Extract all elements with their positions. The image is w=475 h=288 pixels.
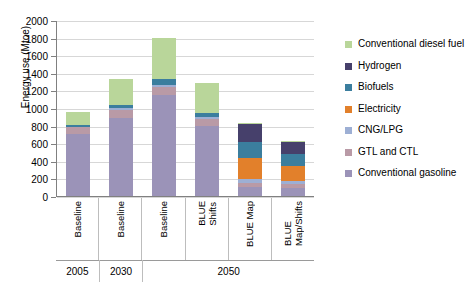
y-axis-tick-label: 600 bbox=[8, 139, 48, 150]
stacked-bar[interactable] bbox=[152, 38, 176, 196]
stacked-bar[interactable] bbox=[281, 141, 305, 196]
bar-segment[interactable] bbox=[281, 188, 305, 196]
y-axis-tick bbox=[51, 144, 56, 145]
y-axis-tick-label: 1400 bbox=[8, 68, 48, 79]
x-axis-category-cell: BLUE Map/Shifts bbox=[272, 198, 314, 260]
x-axis-category-labels: BaselineBaselineBaselineBLUE ShiftsBLUE … bbox=[56, 198, 314, 261]
legend-item[interactable]: Conventional diesel fuel bbox=[345, 38, 475, 50]
y-axis-tick-label: 1200 bbox=[8, 86, 48, 97]
bar-segment[interactable] bbox=[152, 95, 176, 196]
legend-item[interactable]: Electricity bbox=[345, 103, 475, 115]
bar-slot bbox=[100, 21, 143, 196]
x-axis-group-label: 2050 bbox=[143, 260, 314, 282]
bar-segment[interactable] bbox=[152, 87, 176, 94]
chart-figure: Energy use (Mtoe) 0200400600800100012001… bbox=[0, 0, 475, 288]
legend-item[interactable]: Hydrogen bbox=[345, 60, 475, 72]
bar-segment[interactable] bbox=[152, 38, 176, 79]
bar-slot bbox=[228, 21, 271, 196]
y-axis-tick-label: 0 bbox=[8, 192, 48, 203]
x-axis-category-label: Baseline bbox=[72, 201, 83, 237]
x-axis-category-cell: Baseline bbox=[142, 198, 185, 260]
bar-segment[interactable] bbox=[109, 118, 133, 196]
legend-swatch-icon bbox=[345, 149, 352, 156]
y-axis-tick bbox=[51, 56, 56, 57]
legend-item[interactable]: Conventional gasoline bbox=[345, 167, 475, 179]
legend-label: Hydrogen bbox=[358, 60, 401, 72]
x-axis-category-label: BLUE Map/Shifts bbox=[282, 201, 304, 246]
bar-segment[interactable] bbox=[195, 119, 219, 126]
bar-segment[interactable] bbox=[238, 142, 262, 157]
legend-label: Electricity bbox=[358, 103, 401, 115]
y-axis-tick bbox=[51, 91, 56, 92]
y-axis-tick bbox=[51, 39, 56, 40]
y-axis-tick-label: 1000 bbox=[8, 104, 48, 115]
bar-segment[interactable] bbox=[109, 79, 133, 105]
plot-area: 0200400600800100012001400160018002000 bbox=[56, 21, 314, 197]
bar-group bbox=[57, 21, 314, 196]
bar-segment[interactable] bbox=[195, 83, 219, 113]
y-axis-tick-label: 800 bbox=[8, 121, 48, 132]
stacked-bar[interactable] bbox=[238, 123, 262, 196]
bar-slot bbox=[271, 21, 314, 196]
bar-segment[interactable] bbox=[238, 158, 262, 179]
y-axis-tick-label: 400 bbox=[8, 156, 48, 167]
y-axis-tick bbox=[51, 109, 56, 110]
legend-label: Conventional diesel fuel bbox=[358, 38, 464, 50]
legend-swatch-icon bbox=[345, 63, 352, 70]
legend-label: Conventional gasoline bbox=[358, 167, 456, 179]
x-axis-group-label: 2030 bbox=[100, 260, 144, 282]
bar-segment[interactable] bbox=[281, 142, 305, 153]
legend-item[interactable]: CNG/LPG bbox=[345, 124, 475, 136]
bar-segment[interactable] bbox=[109, 110, 133, 117]
x-axis-category-cell: Baseline bbox=[99, 198, 142, 260]
bar-segment[interactable] bbox=[66, 134, 90, 196]
y-axis-tick bbox=[51, 74, 56, 75]
bar-segment[interactable] bbox=[238, 124, 262, 142]
bar-segment[interactable] bbox=[66, 127, 90, 134]
x-axis-category-label: BLUE Shifts bbox=[196, 201, 218, 226]
stacked-bar[interactable] bbox=[195, 83, 219, 196]
x-axis-category-label: Baseline bbox=[158, 201, 169, 237]
y-axis-tick-label: 1800 bbox=[8, 33, 48, 44]
y-axis-tick bbox=[51, 127, 56, 128]
x-axis-category-cell: Baseline bbox=[56, 198, 99, 260]
legend-swatch-icon bbox=[345, 127, 352, 134]
legend: Conventional diesel fuelHydrogenBiofuels… bbox=[345, 38, 475, 189]
legend-swatch-icon bbox=[345, 170, 352, 177]
bar-segment[interactable] bbox=[281, 166, 305, 181]
legend-label: Biofuels bbox=[358, 81, 394, 93]
x-axis-category-label: BLUE Map bbox=[244, 201, 255, 247]
y-axis-tick bbox=[51, 162, 56, 163]
y-axis-tick-label: 2000 bbox=[8, 16, 48, 27]
stacked-bar[interactable] bbox=[109, 79, 133, 196]
x-axis-category-cell: BLUE Map bbox=[229, 198, 272, 260]
legend-label: CNG/LPG bbox=[358, 124, 403, 136]
bar-segment[interactable] bbox=[238, 187, 262, 196]
y-axis-tick-label: 200 bbox=[8, 174, 48, 185]
stacked-bar[interactable] bbox=[66, 112, 90, 196]
bar-segment[interactable] bbox=[66, 112, 90, 124]
y-axis-tick bbox=[51, 21, 56, 22]
legend-item[interactable]: GTL and CTL bbox=[345, 146, 475, 158]
y-axis-tick-label: 1600 bbox=[8, 51, 48, 62]
x-axis-group-labels: 200520302050 bbox=[56, 260, 314, 282]
bar-slot bbox=[143, 21, 186, 196]
legend-label: GTL and CTL bbox=[358, 146, 418, 158]
x-axis-group-label: 2005 bbox=[56, 260, 100, 282]
legend-item[interactable]: Biofuels bbox=[345, 81, 475, 93]
y-axis-tick bbox=[51, 179, 56, 180]
x-axis-category-label: Baseline bbox=[115, 201, 126, 237]
bar-slot bbox=[185, 21, 228, 196]
bar-slot bbox=[57, 21, 100, 196]
bar-segment[interactable] bbox=[195, 126, 219, 196]
legend-swatch-icon bbox=[345, 84, 352, 91]
legend-swatch-icon bbox=[345, 41, 352, 48]
legend-swatch-icon bbox=[345, 106, 352, 113]
x-axis-category-cell: BLUE Shifts bbox=[186, 198, 229, 260]
bar-segment[interactable] bbox=[281, 154, 305, 166]
